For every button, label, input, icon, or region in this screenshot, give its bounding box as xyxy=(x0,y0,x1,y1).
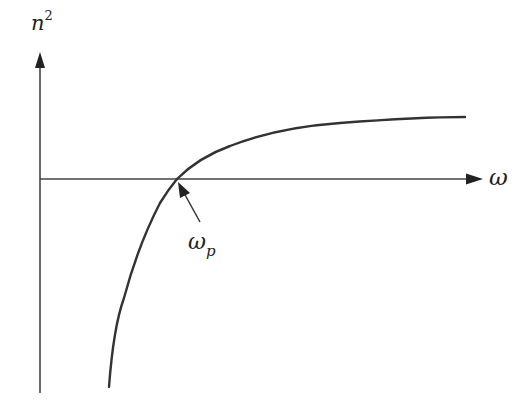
y-axis-label-base: n xyxy=(31,11,45,35)
annotation-arrow-line xyxy=(184,193,200,222)
y-axis-label-exponent: 2 xyxy=(45,8,53,23)
y-axis-arrow-icon xyxy=(35,52,45,68)
omega-p-label-subscript: p xyxy=(206,242,216,260)
y-axis-label: n2 xyxy=(31,10,53,35)
annotation-arrow-icon xyxy=(178,182,190,198)
x-axis-arrow-icon xyxy=(466,174,483,185)
dispersion-curve xyxy=(109,117,465,387)
omega-p-label-base: ω xyxy=(188,229,206,254)
plot-canvas xyxy=(0,0,529,410)
omega-p-label: ωp xyxy=(188,229,216,258)
x-axis-label: ω xyxy=(489,164,508,190)
